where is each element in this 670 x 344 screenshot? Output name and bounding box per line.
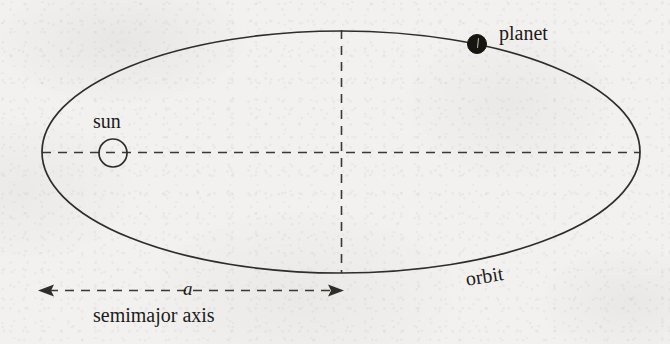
sun-label: sun [93,110,121,133]
semimajor-axis-right-arrowhead [328,285,344,297]
semimajor-axis-symbol-label: a [183,278,193,300]
semimajor-axis-label: semimajor axis [93,304,215,327]
planet-dot [468,35,487,54]
orbit-diagram-figure: planet sun orbit a semimajor axis [0,0,670,344]
orbit-diagram-canvas [0,0,670,344]
planet-label: planet [499,22,548,45]
